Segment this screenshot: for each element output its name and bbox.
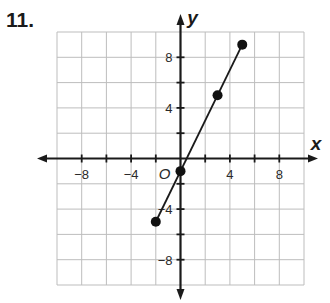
x-axis-arrow-left-icon (37, 155, 47, 163)
y-tick-label: −8 (158, 253, 173, 268)
data-point (213, 90, 223, 100)
data-point (176, 166, 186, 176)
y-tick-label: 8 (165, 50, 172, 65)
coordinate-plane-chart: −8−44884−4−8xyO (0, 0, 330, 303)
x-tick-label: −4 (124, 167, 139, 182)
x-tick-label: −8 (74, 167, 89, 182)
x-tick-label: 4 (226, 167, 233, 182)
y-axis-label: y (186, 7, 199, 28)
x-tick-label: 8 (276, 167, 283, 182)
y-tick-label: 4 (165, 101, 172, 116)
origin-label: O (159, 165, 171, 182)
data-point (237, 40, 247, 50)
y-axis-arrow-up-icon (177, 14, 185, 25)
data-point (151, 217, 161, 227)
y-axis-arrow-down-icon (177, 289, 185, 300)
x-axis-arrow-right-icon (308, 155, 318, 163)
tick-labels: −8−44884−4−8xyO (74, 7, 322, 268)
x-axis-label: x (310, 133, 323, 154)
